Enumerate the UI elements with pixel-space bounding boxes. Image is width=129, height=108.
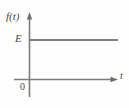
y-axis-label: f(t)	[6, 11, 19, 22]
level-label-E: E	[15, 33, 22, 44]
y-axis-arrowhead-icon	[27, 12, 32, 20]
constant-function-plot: f(t) E t 0	[0, 0, 129, 108]
origin-label: 0	[20, 82, 25, 92]
x-axis-label: t	[120, 71, 123, 81]
x-axis-arrowhead-icon	[111, 77, 119, 83]
